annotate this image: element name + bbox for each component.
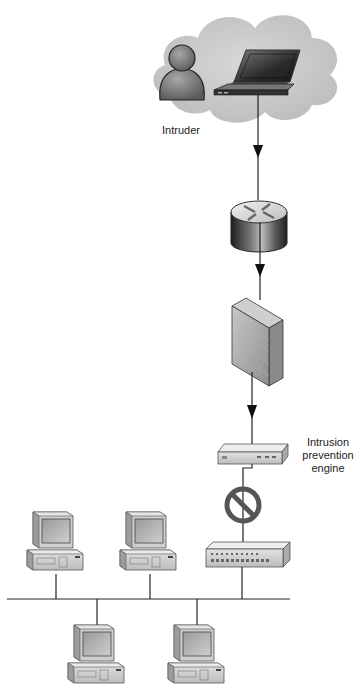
router-icon [231,201,287,252]
network-diagram [0,0,359,699]
switch-hub-icon [206,542,290,567]
intruder-label: Intruder [162,124,200,137]
workstation-icon [120,512,176,570]
ips-label-line2: prevention [298,449,358,462]
ips-label-line3: engine [298,462,358,475]
intrusion-prevention-engine-icon [218,444,288,464]
lan-bus [7,567,290,625]
arrow-head-icon [253,145,263,158]
workstation-icon [68,625,124,683]
arrow-head-icon [247,405,257,419]
ips-label-line1: Intrusion [298,436,358,449]
workstation-icon [27,512,83,570]
ips-label: Intrusion prevention engine [298,436,358,475]
arrow-head-icon [255,264,265,277]
firewall-icon [232,298,283,386]
workstation-icon [168,625,224,683]
